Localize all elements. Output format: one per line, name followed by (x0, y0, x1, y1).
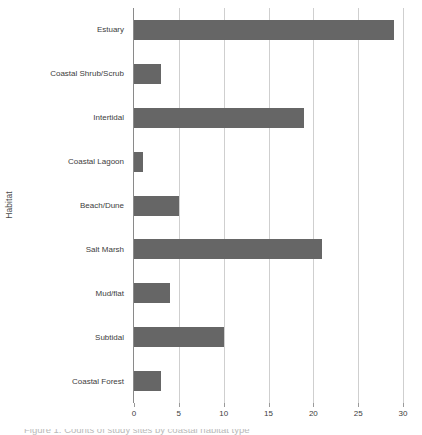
y-axis-title-container: Habitat (0, 0, 18, 410)
x-tick-mark (358, 403, 359, 407)
x-gridline (224, 8, 225, 403)
bar (134, 20, 394, 40)
x-tick-mark (134, 403, 135, 407)
x-tick-label: 20 (309, 409, 318, 418)
x-gridline (403, 8, 404, 403)
x-tick-label: 15 (264, 409, 273, 418)
x-gridline (358, 8, 359, 403)
bar (134, 371, 161, 391)
bar-chart-figure: Habitat EstuaryCoastal Shrub/ScrubIntert… (0, 0, 422, 435)
x-tick-mark (179, 403, 180, 407)
x-tick-label: 5 (177, 409, 181, 418)
x-tick-mark (224, 403, 225, 407)
bar (134, 108, 304, 128)
y-axis-tick-labels: EstuaryCoastal Shrub/ScrubIntertidalCoas… (18, 8, 129, 403)
x-tick-label: 25 (354, 409, 363, 418)
x-tick-mark (313, 403, 314, 407)
x-tick-label: 0 (132, 409, 136, 418)
figure-caption-text: Figure 1. Counts of study sites by coast… (24, 429, 249, 435)
figure-caption-clipped: Figure 1. Counts of study sites by coast… (0, 429, 422, 435)
bar (134, 152, 143, 172)
bar (134, 283, 170, 303)
x-tick-label: 10 (219, 409, 228, 418)
bar (134, 196, 179, 216)
bar (134, 327, 224, 347)
x-tick-mark (403, 403, 404, 407)
x-tick-label: 30 (399, 409, 408, 418)
x-gridline (313, 8, 314, 403)
x-tick-mark (269, 403, 270, 407)
bar (134, 64, 161, 84)
y-axis-title: Habitat (4, 191, 14, 219)
x-gridline (269, 8, 270, 403)
bar (134, 239, 322, 259)
plot-area: 051015202530 (134, 8, 403, 403)
